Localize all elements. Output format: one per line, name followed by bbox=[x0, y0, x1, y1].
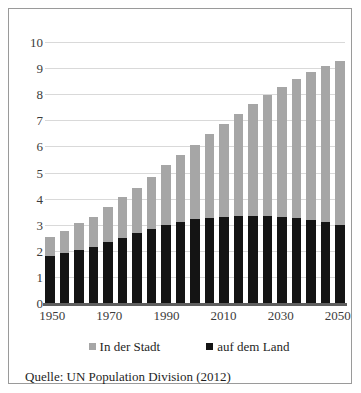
bar-segment-rural bbox=[161, 225, 171, 303]
bar-column bbox=[335, 42, 345, 303]
bar-segment-urban bbox=[74, 223, 84, 250]
bar-segment-rural bbox=[190, 219, 200, 303]
bar-segment-rural bbox=[60, 253, 70, 303]
bar-column bbox=[103, 42, 113, 303]
bar-column bbox=[45, 42, 55, 303]
x-axis-tick-label: 1970 bbox=[96, 309, 122, 322]
bar-column bbox=[263, 42, 273, 303]
bar-segment-urban bbox=[103, 207, 113, 242]
x-axis-tick-label: 1950 bbox=[39, 309, 65, 322]
y-axis-tick-label: 4 bbox=[37, 192, 44, 205]
bar-segment-rural bbox=[263, 216, 273, 303]
bar-segment-rural bbox=[219, 217, 229, 303]
bar-segment-urban bbox=[205, 134, 215, 218]
bar-segment-urban bbox=[248, 104, 258, 216]
x-axis-tick-label: 2050 bbox=[325, 309, 351, 322]
bar-column bbox=[321, 42, 331, 303]
bar-segment-urban bbox=[60, 231, 70, 254]
bar-segment-rural bbox=[292, 218, 302, 303]
bar-column bbox=[190, 42, 200, 303]
bar-segment-rural bbox=[205, 218, 215, 303]
x-axis-tick-label: 2030 bbox=[268, 309, 294, 322]
bar-segment-rural bbox=[321, 222, 331, 303]
bar-column bbox=[118, 42, 128, 303]
y-axis-tick-label: 3 bbox=[37, 218, 44, 231]
x-axis: 195019701990201020302050 bbox=[45, 309, 345, 329]
bar-segment-urban bbox=[219, 124, 229, 217]
legend-item-label: In der Stadt bbox=[100, 340, 161, 353]
bar-segment-rural bbox=[248, 216, 258, 303]
bar-segment-urban bbox=[335, 61, 345, 224]
bar-segment-rural bbox=[335, 225, 345, 303]
bar-column bbox=[132, 42, 142, 303]
bar-segment-urban bbox=[89, 217, 99, 247]
y-axis-tick-label: 6 bbox=[37, 140, 44, 153]
chart-legend: In der Stadtauf dem Land bbox=[17, 336, 361, 356]
bar-segment-urban bbox=[234, 114, 244, 216]
bar-segment-urban bbox=[190, 145, 200, 219]
y-axis-tick-label: 2 bbox=[37, 244, 44, 257]
bar-column bbox=[60, 42, 70, 303]
y-axis-tick-label: 9 bbox=[37, 62, 44, 75]
bar-segment-urban bbox=[45, 237, 55, 257]
bar-segment-rural bbox=[234, 216, 244, 303]
source-note: Quelle: UN Population Division (2012) bbox=[25, 370, 231, 383]
bar-column bbox=[306, 42, 316, 303]
bar-segment-urban bbox=[321, 66, 331, 222]
x-axis-tick-label: 1990 bbox=[153, 309, 179, 322]
bar-segment-urban bbox=[277, 87, 287, 218]
bar-segment-rural bbox=[306, 220, 316, 303]
bar-segment-urban bbox=[292, 79, 302, 218]
bar-segment-urban bbox=[118, 197, 128, 237]
bar-column bbox=[147, 42, 157, 303]
bar-segment-rural bbox=[132, 233, 142, 303]
bar-column bbox=[234, 42, 244, 303]
figure-frame: 012345678910 195019701990201020302050 In… bbox=[8, 8, 352, 384]
bar-column bbox=[161, 42, 171, 303]
bar-segment-urban bbox=[176, 155, 186, 222]
plot-area bbox=[45, 42, 345, 306]
legend-item-label: auf dem Land bbox=[217, 340, 289, 353]
bar-segment-urban bbox=[263, 95, 273, 216]
bar-segment-urban bbox=[147, 177, 157, 229]
x-axis-line bbox=[43, 303, 347, 306]
bar-column bbox=[292, 42, 302, 303]
y-axis-tick-label: 1 bbox=[37, 270, 44, 283]
y-axis-tick-label: 10 bbox=[30, 36, 43, 49]
bar-segment-rural bbox=[118, 238, 128, 304]
bar-segment-rural bbox=[89, 247, 99, 303]
bar-segment-rural bbox=[103, 242, 113, 303]
bar-segment-urban bbox=[132, 188, 142, 234]
bar-series-container bbox=[45, 42, 345, 303]
bar-column bbox=[89, 42, 99, 303]
bar-segment-rural bbox=[74, 250, 84, 303]
bar-segment-urban bbox=[306, 72, 316, 219]
bar-segment-rural bbox=[147, 229, 157, 303]
bar-segment-rural bbox=[176, 222, 186, 303]
legend-item: In der Stadt bbox=[89, 340, 161, 353]
chart-figure: 012345678910 195019701990201020302050 In… bbox=[0, 0, 361, 393]
bar-column bbox=[219, 42, 229, 303]
legend-item: auf dem Land bbox=[206, 340, 289, 353]
legend-swatch-icon bbox=[206, 343, 213, 350]
bar-column bbox=[248, 42, 258, 303]
bar-column bbox=[74, 42, 84, 303]
x-axis-tick-label: 2010 bbox=[211, 309, 237, 322]
y-axis-tick-label: 7 bbox=[37, 114, 44, 127]
bar-segment-rural bbox=[45, 256, 55, 303]
y-axis-tick-label: 8 bbox=[37, 88, 44, 101]
bar-column bbox=[176, 42, 186, 303]
bar-column bbox=[205, 42, 215, 303]
bar-column bbox=[277, 42, 287, 303]
bar-segment-urban bbox=[161, 165, 171, 225]
y-axis-tick-label: 5 bbox=[37, 166, 44, 179]
legend-swatch-icon bbox=[89, 343, 96, 350]
bar-segment-rural bbox=[277, 217, 287, 303]
y-axis: 012345678910 bbox=[17, 42, 43, 306]
